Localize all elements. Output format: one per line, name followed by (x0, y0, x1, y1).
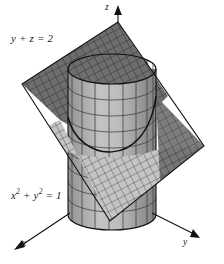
cylinder-equation-label: x2 + y2 = 1 (11, 187, 62, 201)
cylinder-equation-x: x2 (11, 189, 20, 201)
axis-label-y: y (183, 237, 187, 247)
cylinder-equation-rest: + y2 = 1 (20, 189, 62, 201)
axis-label-x: x (22, 238, 26, 248)
plane-equation-label: y + z = 2 (11, 32, 53, 44)
axis-y (152, 213, 200, 238)
axis-label-z: z (105, 2, 109, 12)
math-figure-cylinder-plane: y + z = 2 x2 + y2 = 1 z x y (0, 0, 224, 264)
